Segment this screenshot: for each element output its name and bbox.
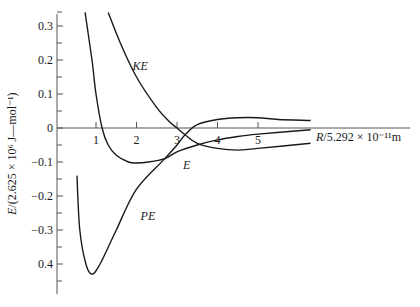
curve-e <box>85 12 311 163</box>
x-axis-label: R/5.292 × 10⁻¹¹m <box>315 130 402 144</box>
curves <box>77 12 311 274</box>
y-tick-label: 0.1 <box>38 87 53 101</box>
y-tick-label: 0 <box>47 121 53 135</box>
x-tick-label: 1 <box>93 133 99 147</box>
y-tick-label: −0.3 <box>31 223 53 237</box>
x-ticks: 12345 <box>93 122 261 147</box>
y-ticks: 0.30.20.10−0.1−0.2−0.30.4 <box>31 12 63 281</box>
curve-label-pe: PE <box>140 209 156 223</box>
x-tick-label: 5 <box>255 133 261 147</box>
y-tick-label: 0.4 <box>38 257 53 271</box>
y-axis-label: E/(2.625 × 10⁶ J—mol⁻¹) <box>5 92 19 216</box>
energy-vs-distance-chart: 0.30.20.10−0.1−0.2−0.30.4 12345 KEEPE R/… <box>0 0 420 307</box>
curve-label-ke: KE <box>131 59 148 73</box>
axes <box>57 14 410 294</box>
y-tick-label: −0.1 <box>31 155 53 169</box>
curve-label-e: E <box>182 158 191 172</box>
y-tick-label: −0.2 <box>31 189 53 203</box>
curve-ke <box>108 12 310 150</box>
x-tick-label: 2 <box>134 133 140 147</box>
y-tick-label: 0.2 <box>38 53 53 67</box>
y-tick-label: 0.3 <box>38 19 53 33</box>
